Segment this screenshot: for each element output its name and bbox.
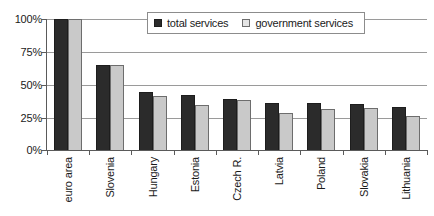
bar-government-services: [237, 100, 251, 150]
x-axis-label-line: R.: [231, 157, 243, 168]
x-axis-label-line: area: [62, 157, 74, 178]
x-axis-label: Latvia: [273, 157, 285, 185]
legend-item-total-services: total services: [154, 18, 228, 29]
x-axis-label-cell: Hungary: [131, 155, 173, 216]
bar-group: [385, 19, 427, 150]
x-axis-label-line: Czech: [231, 171, 243, 201]
bar-government-services: [406, 116, 420, 150]
x-axis-label-cell: CzechR.: [216, 155, 258, 216]
x-axis-label-cell: euroarea: [47, 155, 89, 216]
y-axis-label-100: 100%: [0, 14, 42, 25]
x-axis-label-cell: Slovenia: [89, 155, 131, 216]
dark-square-icon: [154, 19, 162, 27]
bar-government-services: [364, 108, 378, 150]
bar-government-services: [279, 113, 293, 150]
x-axis-label: Hungary: [147, 157, 159, 197]
legend-item-government-services: government services: [242, 18, 353, 29]
x-axis-label-cell: Latvia: [258, 155, 300, 216]
x-axis-tick: [427, 150, 428, 155]
bar-group: [89, 19, 131, 150]
x-axis-label-cell: Poland: [300, 155, 342, 216]
bar-groups: [47, 19, 427, 150]
x-axis-label: Lithuania: [400, 157, 412, 200]
bar-government-services: [321, 109, 335, 150]
y-axis-label-0: 0%: [0, 145, 42, 156]
y-axis-label-50: 50%: [0, 80, 42, 91]
y-axis-label-25: 25%: [0, 113, 42, 124]
x-axis-label-line: Hungary: [147, 157, 159, 197]
bar-total-services: [350, 104, 364, 150]
light-square-icon: [242, 19, 250, 27]
bar-total-services: [223, 99, 237, 150]
x-axis-label-cell: Slovakia: [343, 155, 385, 216]
x-axis-label-line: Slovakia: [358, 157, 370, 197]
chart-legend: total services government services: [147, 12, 365, 34]
bar-total-services: [181, 95, 195, 150]
x-axis-label: Estonia: [189, 157, 201, 192]
legend-label-total-services: total services: [167, 18, 228, 29]
y-axis-label-75: 75%: [0, 47, 42, 58]
bar-group: [47, 19, 89, 150]
x-axis-label-line: Lithuania: [400, 157, 412, 200]
x-axis-label: euroarea: [62, 157, 74, 202]
bar-group: [258, 19, 300, 150]
bar-government-services: [153, 96, 167, 150]
x-axis-label-line: Poland: [315, 157, 327, 190]
x-axis-label-line: Latvia: [273, 157, 285, 185]
x-axis-label: Poland: [315, 157, 327, 190]
bar-total-services: [265, 103, 279, 150]
bar-total-services: [54, 19, 68, 150]
bar-group: [174, 19, 216, 150]
x-axis-label: CzechR.: [231, 157, 243, 201]
bar-government-services: [68, 19, 82, 150]
bar-group: [216, 19, 258, 150]
bar-chart: 100% 75% 50% 25% 0% euroareaSloveniaHung…: [0, 0, 434, 216]
bar-total-services: [307, 103, 321, 150]
bar-government-services: [195, 105, 209, 150]
y-axis-labels: 100% 75% 50% 25% 0%: [0, 0, 42, 216]
x-axis-label-line: Estonia: [189, 157, 201, 192]
x-axis-labels: euroareaSloveniaHungaryEstoniaCzechR.Lat…: [47, 155, 427, 216]
x-axis-label-cell: Estonia: [174, 155, 216, 216]
bar-total-services: [139, 92, 153, 150]
x-axis-label-line: euro: [62, 181, 74, 202]
bar-total-services: [392, 107, 406, 150]
bar-total-services: [96, 65, 110, 150]
x-axis-label-line: Slovenia: [104, 157, 116, 198]
bar-government-services: [110, 65, 124, 150]
x-axis-label: Slovakia: [358, 157, 370, 197]
x-axis-label: Slovenia: [104, 157, 116, 198]
bar-group: [343, 19, 385, 150]
bar-group: [131, 19, 173, 150]
legend-label-government-services: government services: [255, 18, 353, 29]
bar-group: [300, 19, 342, 150]
x-axis-label-cell: Lithuania: [385, 155, 427, 216]
